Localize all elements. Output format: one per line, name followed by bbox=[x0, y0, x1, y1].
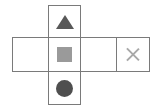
grid-cell-column-top[interactable] bbox=[48, 5, 81, 38]
grid-cell-row-far-right[interactable] bbox=[116, 37, 150, 72]
grid-cell-center[interactable] bbox=[48, 37, 81, 72]
square-icon bbox=[57, 47, 72, 62]
grid-cell-row-mid-right[interactable] bbox=[80, 37, 117, 72]
close-icon[interactable] bbox=[125, 46, 142, 63]
grid-cell-row-far-left[interactable] bbox=[12, 37, 49, 72]
shape-grid-diagram bbox=[0, 0, 161, 112]
grid-cell-column-bottom[interactable] bbox=[48, 71, 81, 105]
triangle-icon bbox=[56, 15, 74, 29]
circle-icon bbox=[56, 80, 73, 97]
